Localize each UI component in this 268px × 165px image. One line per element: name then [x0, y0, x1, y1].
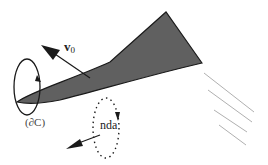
boundary-loop — [14, 59, 40, 115]
normal-arrow-head-icon — [66, 139, 83, 149]
normal-element-label: nda — [100, 118, 117, 133]
diagram-canvas — [0, 0, 268, 165]
streamlines — [204, 73, 254, 145]
boundary-loop-arrow-icon — [35, 75, 41, 82]
velocity-arrow-head-icon — [41, 45, 60, 60]
diagram-figure: v0 (∂C) nda — [0, 0, 268, 165]
velocity-label: v0 — [64, 39, 75, 55]
boundary-label: (∂C) — [25, 116, 45, 128]
velocity-arrow-shaft — [52, 52, 90, 78]
wedge-shape — [17, 12, 202, 103]
